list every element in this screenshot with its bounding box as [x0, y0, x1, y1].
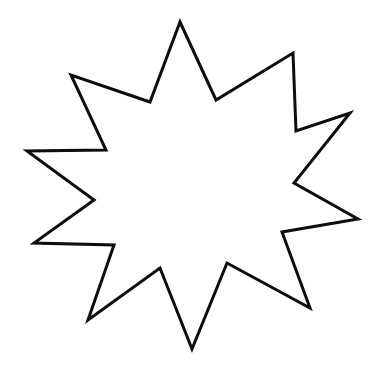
- star-svg: Star Outline: [0, 0, 379, 371]
- drawing-canvas: Star Outline: [0, 0, 379, 371]
- ten-pointed-star-outline: [27, 22, 358, 349]
